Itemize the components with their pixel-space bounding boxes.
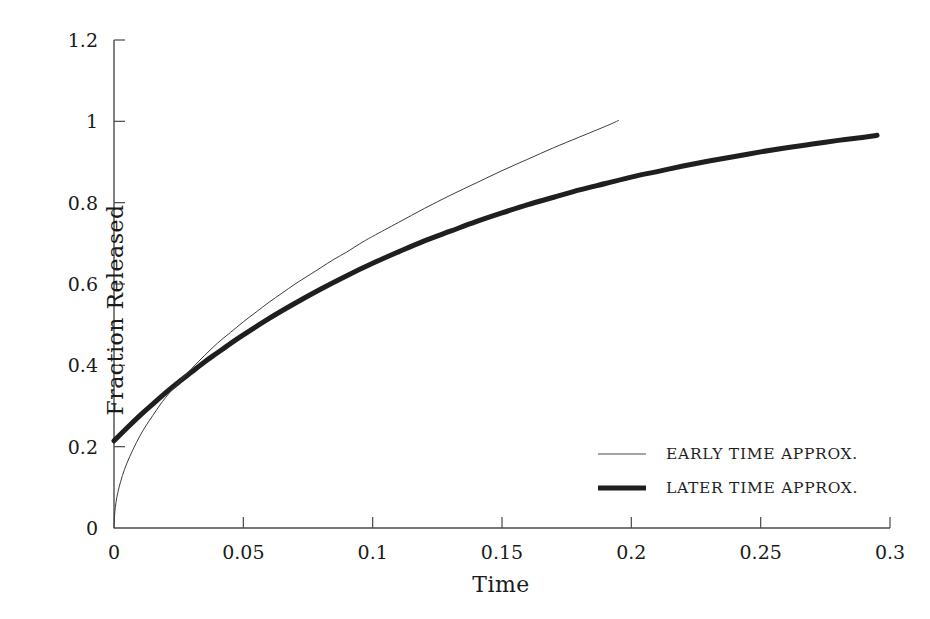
y-axis-tick-label: 0.8 [30,193,98,212]
y-axis-title: Fraction Released [103,204,128,415]
x-axis-ticks [243,517,890,528]
x-axis-tick-label: 0.15 [481,543,523,562]
chart-legend: EARLY TIME APPROX. LATER TIME APPROX. [598,437,898,505]
y-axis-tick-label: 1 [30,112,98,131]
x-axis-tick-label: 0.1 [358,543,388,562]
legend-line-early-icon [598,447,646,461]
legend-line-later-icon [598,481,646,495]
curve-early-time-approx [114,121,618,528]
x-axis-tick-label: 0.2 [616,543,646,562]
x-axis-title: Time [472,572,530,597]
legend-item-later: LATER TIME APPROX. [598,471,898,505]
legend-item-early: EARLY TIME APPROX. [598,437,898,471]
x-axis-tick-label: 0 [108,543,120,562]
y-axis-tick-label: 0.4 [30,356,98,375]
chart-figure: 00.20.40.60.811.2 00.050.10.150.20.250.3… [0,0,930,619]
y-axis-tick-label: 0.6 [30,275,98,294]
y-axis-tick-label: 1.2 [30,31,98,50]
x-axis-tick-label: 0.05 [222,543,264,562]
x-axis-tick-label: 0.3 [875,543,905,562]
legend-label-later: LATER TIME APPROX. [666,479,858,497]
plot-area [0,0,930,619]
y-axis-tick-label: 0 [30,519,98,538]
legend-label-early: EARLY TIME APPROX. [666,445,858,463]
y-axis-tick-label: 0.2 [30,437,98,456]
curve-later-time-approx [114,135,877,441]
x-axis-tick-label: 0.25 [740,543,782,562]
